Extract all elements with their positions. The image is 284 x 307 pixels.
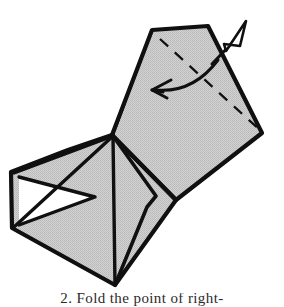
- figure-caption-text: 2. Fold the point of right-: [0, 293, 284, 306]
- figure-caption: 2. Fold the point of right-: [0, 293, 284, 307]
- origami-figure: 2. Fold the point of right-: [0, 0, 284, 307]
- push-arrow-hollow-head: [224, 21, 246, 51]
- origami-diagram-svg: [0, 0, 284, 307]
- crease-center-vertical: [113, 136, 115, 285]
- fold-arrow-head-tail: [152, 90, 163, 92]
